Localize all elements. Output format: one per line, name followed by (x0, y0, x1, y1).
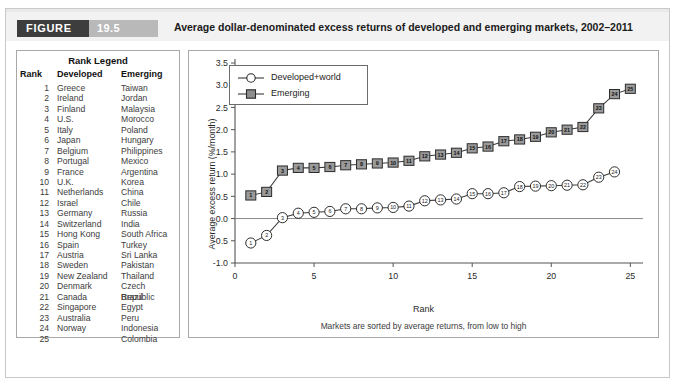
data-point-label: 4 (297, 210, 300, 216)
emerging-cell: Hungary (121, 135, 153, 145)
data-point: 2 (262, 230, 272, 240)
table-row: 14SwitzerlandIndia (17, 219, 179, 229)
data-point-label: 3 (281, 168, 284, 174)
data-point-label: 1 (249, 240, 252, 246)
developed-cell: Denmark (57, 281, 92, 291)
data-point: 17 (499, 137, 509, 146)
data-point-label: 11 (406, 158, 412, 164)
figure-body: Rank Legend Rank Developed Emerging 1Gre… (6, 41, 669, 376)
table-row: 19New ZealandThailand (17, 271, 179, 281)
developed-cell: Singapore (57, 302, 96, 312)
developed-cell: Canada (57, 292, 87, 302)
emerging-cell: Colombia (121, 334, 157, 344)
column-header-emerging: Emerging (121, 69, 163, 79)
data-point: 14 (451, 194, 461, 204)
data-point-label: 10 (390, 160, 396, 166)
rank-cell: 17 (20, 250, 49, 260)
rank-cell: 18 (20, 260, 49, 270)
data-point: 22 (578, 122, 588, 131)
table-row: 17AustriaSri Lanka (17, 250, 179, 260)
data-point: 18 (515, 181, 525, 191)
data-point-label: 6 (328, 164, 331, 170)
data-point: 13 (435, 195, 445, 205)
data-point: 20 (546, 128, 556, 137)
data-point: 1 (246, 238, 256, 248)
legend-entry-emerging: Emerging (237, 88, 265, 102)
data-point: 7 (341, 161, 351, 170)
data-point-label: 2 (265, 189, 268, 195)
data-point: 19 (530, 181, 540, 191)
developed-cell: Switzerland (57, 219, 101, 229)
table-row: 24NorwayIndonesia (17, 323, 179, 333)
table-row: 7BelgiumPhilippines (17, 146, 179, 156)
x-tick-label: 15 (467, 271, 477, 281)
emerging-cell: Egypt (121, 302, 143, 312)
rank-cell: 13 (20, 208, 49, 218)
data-point: 12 (420, 152, 430, 161)
rank-cell: 11 (20, 187, 49, 197)
data-point: 19 (530, 132, 540, 141)
legend-square-marker-icon (237, 88, 265, 100)
figure-card: FIGURE 19.5 Average dollar-denominated e… (5, 8, 670, 378)
data-point: 9 (372, 159, 382, 168)
rank-cell: 19 (20, 271, 49, 281)
developed-cell: Sweden (57, 260, 88, 270)
rank-legend-header: Rank Developed Emerging (17, 69, 179, 81)
figure-number: 19.5 (97, 22, 120, 35)
data-point: 15 (467, 144, 477, 153)
data-point-label: 12 (422, 153, 428, 159)
table-row: 23AustraliaPeru (17, 313, 179, 323)
data-point: 6 (325, 162, 335, 171)
data-point-label: 14 (453, 150, 459, 156)
data-point-label: 16 (485, 144, 491, 150)
y-tick-label: 2.5 (216, 103, 228, 113)
y-tick-label: 0.0 (216, 214, 228, 224)
rank-cell: 4 (20, 114, 49, 124)
table-row: 10U.K.Korea (17, 177, 179, 187)
x-tick-label: 25 (625, 271, 635, 281)
y-tick-label: 2.0 (216, 125, 228, 135)
data-point-label: 19 (532, 183, 538, 189)
x-tick-label: 5 (312, 271, 317, 281)
table-row: 20DenmarkCzech Republic (17, 281, 179, 291)
rank-cell: 10 (20, 177, 49, 187)
figure-title: Average dollar-denominated excess return… (174, 20, 633, 35)
rank-cell: 15 (20, 229, 49, 239)
developed-cell: Israel (57, 198, 78, 208)
developed-cell: Hong Kong (57, 229, 100, 239)
emerging-cell: Jordan (121, 93, 147, 103)
rank-cell: 14 (20, 219, 49, 229)
figure-header: FIGURE 19.5 Average dollar-denominated e… (6, 12, 669, 41)
rank-cell: 5 (20, 125, 49, 135)
emerging-cell: Taiwan (121, 83, 148, 93)
data-point-label: 4 (297, 165, 300, 171)
table-row: 2IrelandJordan (17, 93, 179, 103)
data-point: 4 (293, 208, 303, 218)
developed-cell: Netherlands (57, 187, 103, 197)
rank-cell: 6 (20, 135, 49, 145)
figure-root: FIGURE 19.5 Average dollar-denominated e… (0, 0, 675, 392)
developed-cell: Greece (57, 83, 85, 93)
data-point-label: 16 (485, 191, 491, 197)
table-row: 1GreeceTaiwan (17, 83, 179, 93)
legend-label-emerging: Emerging (271, 88, 310, 98)
rank-legend-table: Rank Legend Rank Developed Emerging 1Gre… (16, 50, 180, 338)
data-point-label: 24 (612, 169, 618, 175)
data-point: 11 (404, 156, 414, 165)
table-row: 6JapanHungary (17, 135, 179, 145)
rank-cell: 21 (20, 292, 49, 302)
table-row: 8PortugalMexico (17, 156, 179, 166)
rank-cell: 23 (20, 313, 49, 323)
rank-cell: 25 (20, 334, 49, 344)
legend-circle-marker-icon (237, 72, 265, 84)
data-point: 15 (467, 189, 477, 199)
data-point: 23 (594, 104, 604, 113)
data-point: 16 (483, 142, 493, 151)
emerging-cell: Morocco (121, 114, 154, 124)
table-row: 11NetherlandsChina (17, 187, 179, 197)
data-point-label: 5 (313, 209, 316, 215)
table-row: 13GermanyRussia (17, 208, 179, 218)
data-point-label: 19 (532, 134, 538, 140)
rank-cell: 22 (20, 302, 49, 312)
x-tick-label: 10 (388, 271, 398, 281)
